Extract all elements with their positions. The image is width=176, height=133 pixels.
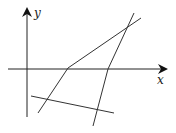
- x-axis-label: x: [157, 73, 164, 87]
- graph-diagram: y x: [0, 0, 176, 133]
- y-axis-label: y: [33, 6, 41, 20]
